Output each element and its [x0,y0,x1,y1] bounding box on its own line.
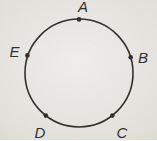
point-dot-b [128,55,133,60]
circle-figure: A B C D E [0,0,157,140]
point-label-c: C [117,124,128,140]
point-label-b: B [138,49,148,66]
point-dot-e [25,53,30,58]
point-label-d: D [35,124,46,141]
point-dot-a [77,17,82,22]
point-label-e: E [9,43,20,60]
point-dot-c [110,113,115,118]
point-dot-d [44,113,49,118]
point-label-a: A [77,0,88,15]
diagram-canvas: A B C D E [0,0,157,140]
